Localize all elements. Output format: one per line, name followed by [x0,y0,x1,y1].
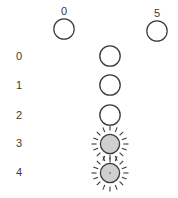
column-header-circle-0 [53,18,75,40]
cell-marker-row-2[interactable] [99,104,121,126]
diagram-canvas: 0 5 0 1 2 3 4 [0,0,178,198]
row-label-2: 2 [11,110,27,121]
column-header-label-5: 5 [147,8,167,19]
sun-burst-icon [91,154,129,192]
cell-marker-row-1[interactable] [99,74,121,96]
cell-marker-row-0[interactable] [99,45,121,67]
row-label-0: 0 [11,51,27,62]
column-header-label-0: 0 [54,6,74,17]
sun-center-dot-icon [109,172,111,174]
row-label-3: 3 [11,138,27,149]
row-label-4: 4 [11,167,27,178]
column-header-circle-5 [146,20,168,42]
row-label-1: 1 [11,80,27,91]
cell-marker-row-4[interactable] [91,154,129,192]
